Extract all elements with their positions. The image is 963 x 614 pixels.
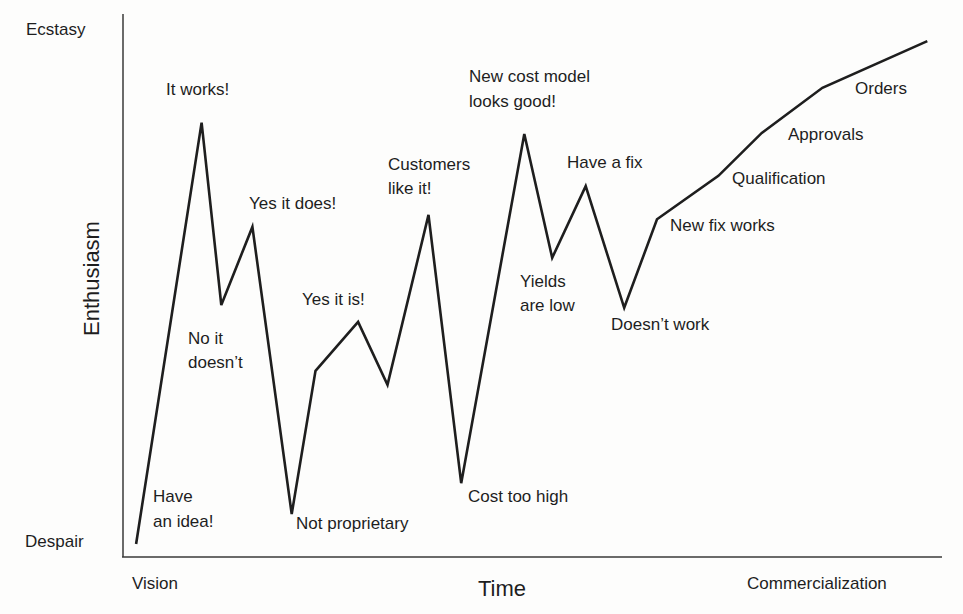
annotation-doesnt-work: Doesn’t work bbox=[611, 315, 710, 334]
annotation-approvals: Approvals bbox=[788, 125, 864, 144]
annotation-yes-it-is: Yes it is! bbox=[302, 290, 365, 309]
annotation-it-works: It works! bbox=[166, 80, 229, 99]
annotation-qualification: Qualification bbox=[732, 169, 826, 188]
annotation-not-proprietary: Not proprietary bbox=[296, 514, 409, 533]
y-axis-title: Enthusiasm bbox=[79, 221, 104, 336]
annotation-have-a-fix: Have a fix bbox=[567, 153, 643, 172]
enthusiasm-line bbox=[136, 41, 927, 544]
annotation-new-cost-model: New cost modellooks good! bbox=[469, 67, 590, 111]
y-tick-despair: Despair bbox=[25, 532, 84, 551]
annotation-new-fix-works: New fix works bbox=[670, 216, 775, 235]
enthusiasm-chart: Ecstasy Despair Enthusiasm Vision Commer… bbox=[0, 0, 963, 614]
annotation-yields-are-low: Yieldsare low bbox=[520, 272, 576, 315]
annotation-orders: Orders bbox=[855, 79, 907, 98]
x-tick-commercialization: Commercialization bbox=[747, 574, 887, 593]
annotation-cost-too-high: Cost too high bbox=[468, 487, 568, 506]
x-tick-vision: Vision bbox=[132, 574, 178, 593]
x-axis-title: Time bbox=[478, 576, 526, 601]
annotation-yes-it-does: Yes it does! bbox=[249, 194, 336, 213]
annotation-customers-like-it: Customerslike it! bbox=[388, 155, 470, 198]
annotation-no-it-doesnt: No itdoesn’t bbox=[188, 329, 243, 372]
y-tick-ecstasy: Ecstasy bbox=[26, 20, 86, 39]
annotations: It works! Yes it does! No itdoesn’t Have… bbox=[153, 67, 907, 533]
annotation-have-an-idea: Havean idea! bbox=[153, 487, 214, 531]
